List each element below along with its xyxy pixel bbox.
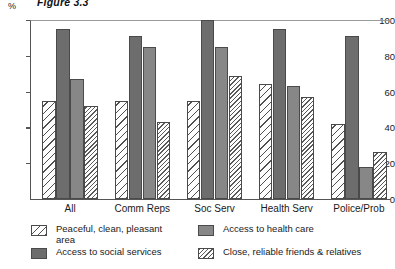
bar-group (187, 20, 242, 199)
legend-label: Access to health care (223, 224, 314, 235)
x-axis-line (30, 199, 391, 200)
bar (373, 152, 386, 199)
bar (157, 122, 170, 199)
legend-swatch (198, 225, 214, 236)
bar (187, 101, 200, 199)
bar (345, 36, 358, 199)
bar (129, 36, 142, 199)
legend-swatch (31, 248, 47, 259)
legend-label: Access to social services (56, 247, 162, 258)
x-tick-label: Health Serv (261, 203, 313, 214)
bar (143, 47, 156, 199)
bar-group (259, 20, 314, 199)
bar-groups (30, 20, 391, 199)
bar (301, 97, 314, 199)
bar (84, 106, 97, 199)
chart-legend: Peaceful, clean, pleasant areaAccess to … (31, 224, 391, 268)
bar (56, 29, 69, 199)
legend-label: Peaceful, clean, pleasant area (56, 224, 162, 245)
legend-item: Peaceful, clean, pleasant area (31, 224, 162, 245)
bar-group (331, 20, 386, 199)
y-axis-unit-label: % (8, 1, 16, 11)
x-tick-label: Police/Prob (333, 203, 384, 214)
bar (273, 29, 286, 199)
figure-container: Figure 3.3 % 020406080100 AllComm RepsSo… (0, 0, 395, 269)
legend-item: Close, reliable friends & relatives (198, 247, 361, 259)
legend-swatch (31, 225, 47, 236)
bar (201, 20, 214, 199)
legend-item: Access to social services (31, 247, 162, 259)
bar (115, 101, 128, 199)
legend-swatch (198, 248, 214, 259)
bar (215, 47, 228, 199)
bar (359, 167, 372, 199)
bar-group (115, 20, 170, 199)
x-tick-label: Comm Reps (115, 203, 171, 214)
legend-item: Access to health care (198, 224, 314, 236)
x-tick-label: All (65, 203, 76, 214)
bar (287, 86, 300, 199)
bar (331, 124, 344, 199)
bar (259, 84, 272, 199)
x-tick-label: Soc Serv (194, 203, 235, 214)
bar-group (42, 20, 97, 199)
bar (42, 101, 55, 199)
legend-label: Close, reliable friends & relatives (223, 247, 361, 258)
bar (70, 79, 83, 199)
figure-title: Figure 3.3 (37, 0, 89, 8)
bar (229, 76, 242, 200)
